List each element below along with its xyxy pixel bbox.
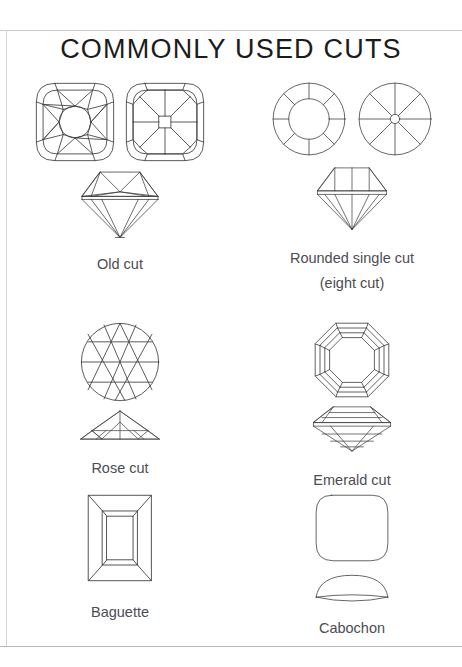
emerald-cut-face-up-view	[252, 320, 452, 400]
caption-rounded-single-cut: Rounded single cut	[252, 246, 452, 271]
cushion-face-up-b-icon	[123, 80, 207, 164]
frame-rule-top	[0, 30, 462, 31]
caption-rounded-single-cut-line2: (eight cut)	[252, 271, 452, 296]
rose-profile-icon	[78, 408, 162, 442]
page-canvas: COMMONLY USED CUTS	[0, 0, 462, 667]
octagon-face-up-icon	[312, 320, 392, 400]
page-title: COMMONLY USED CUTS	[0, 34, 462, 65]
single-cut-profile-view	[252, 160, 452, 236]
cut-card-cabochon: Cabochon	[252, 492, 452, 641]
caption-emerald-cut: Emerald cut	[252, 468, 452, 493]
rounded-single-cut-face-up-views	[252, 80, 452, 158]
cabochon-profile-view	[252, 572, 452, 602]
caption-baguette: Baguette	[14, 600, 226, 625]
caption-cabochon: Cabochon	[252, 616, 452, 641]
old-cut-profile-icon	[74, 166, 166, 242]
cabochon-face-up-view	[252, 492, 452, 564]
old-cut-profile-view	[14, 166, 226, 242]
cuts-grid: Old cut	[0, 80, 462, 646]
caption-old-cut: Old cut	[14, 252, 226, 277]
cut-card-baguette: Baguette	[14, 492, 226, 625]
old-cut-face-up-views	[14, 80, 226, 164]
cushion-face-up-a-icon	[33, 80, 117, 164]
single-cut-profile-icon	[309, 160, 395, 236]
baguette-face-up-view	[14, 492, 226, 584]
caption-rose-cut: Rose cut	[14, 456, 226, 481]
round-crown-face-up-icon	[270, 80, 348, 158]
rose-cut-face-up-view	[14, 320, 226, 404]
round-pavilion-face-up-icon	[356, 80, 434, 158]
cut-card-rounded-single-cut: Rounded single cut (eight cut)	[252, 80, 452, 296]
frame-rule-bottom	[0, 646, 462, 647]
emerald-cut-profile-view	[252, 404, 452, 454]
cut-card-emerald-cut: Emerald cut	[252, 320, 452, 493]
cabochon-profile-icon	[313, 572, 391, 602]
cabochon-face-up-icon	[313, 492, 391, 564]
cut-card-rose-cut: Rose cut	[14, 320, 226, 481]
rose-cut-profile-view	[14, 408, 226, 442]
cut-card-old-cut: Old cut	[14, 80, 226, 277]
rose-face-up-icon	[78, 320, 162, 404]
baguette-face-up-icon	[86, 492, 154, 584]
emerald-profile-icon	[309, 404, 395, 454]
